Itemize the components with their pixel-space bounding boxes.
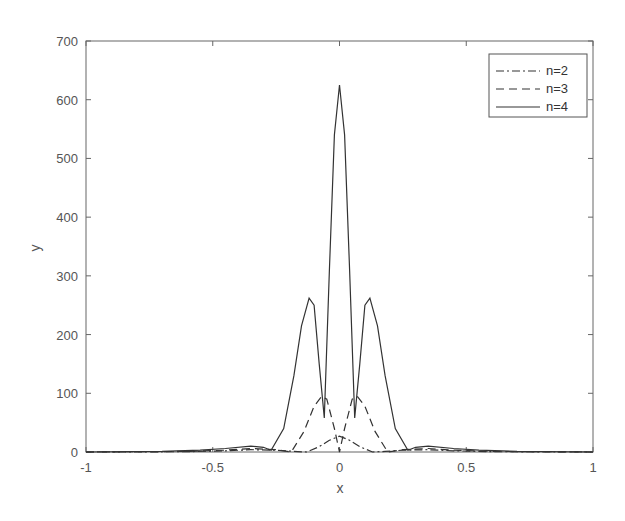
legend-label-n2: n=2 <box>546 63 568 78</box>
x-tick-label: -1 <box>80 460 92 475</box>
legend-label-n3: n=3 <box>546 81 568 96</box>
line-chart: -1-0.500.510100200300400500600700 x y n=… <box>0 0 625 521</box>
x-tick-label: 0 <box>336 460 343 475</box>
y-tick-label: 700 <box>56 34 78 49</box>
y-tick-label: 600 <box>56 93 78 108</box>
y-tick-label: 400 <box>56 210 78 225</box>
x-axis-label: x <box>337 480 344 496</box>
x-tick-label: 1 <box>589 460 596 475</box>
y-tick-label: 500 <box>56 151 78 166</box>
x-tick-label: 0.5 <box>457 460 475 475</box>
x-tick-label: -0.5 <box>202 460 224 475</box>
y-axis-label: y <box>27 245 43 252</box>
y-tick-label: 0 <box>71 445 78 460</box>
legend: n=2 n=3 n=4 <box>489 54 587 117</box>
y-tick-label: 200 <box>56 328 78 343</box>
y-tick-label: 300 <box>56 269 78 284</box>
legend-label-n4: n=4 <box>546 99 568 114</box>
y-tick-label: 100 <box>56 386 78 401</box>
